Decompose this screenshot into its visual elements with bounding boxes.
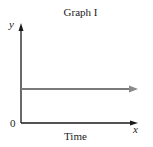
x-axis: [21, 121, 138, 126]
graph-plot: [0, 0, 153, 147]
constant-line: [21, 86, 138, 93]
y-axis: [19, 23, 24, 123]
